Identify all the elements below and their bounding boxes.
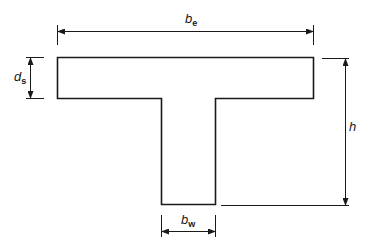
flange-width-label: be — [185, 11, 197, 28]
t-beam-diagram: be ds h bw — [0, 0, 368, 247]
flange-width-dimension: be — [58, 11, 314, 45]
t-section-outline — [58, 58, 314, 205]
total-height-label: h — [349, 119, 356, 134]
web-width-label: bw — [181, 212, 196, 229]
slab-depth-dimension: ds — [14, 58, 44, 99]
web-width-dimension: bw — [162, 212, 216, 237]
total-height-dimension: h — [221, 59, 356, 206]
slab-depth-label: ds — [14, 69, 26, 86]
